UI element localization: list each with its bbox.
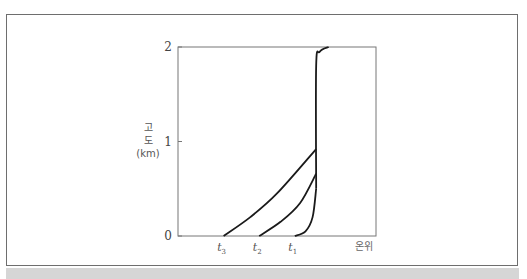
y-axis-label-line: (km) <box>136 148 159 159</box>
y-axis-label-line: 도 <box>144 135 153 146</box>
y-axis-label-line: 고 <box>144 122 153 133</box>
x-marker-t1: t1 <box>288 241 297 256</box>
curve-t3 <box>224 149 317 236</box>
x-marker-t3: t3 <box>217 241 226 256</box>
curves <box>224 47 329 236</box>
y-axis-label: 고도(km) <box>136 122 159 159</box>
plot-box <box>178 47 376 236</box>
chart-svg: 012 고도(km) t3t2t1 온위 <box>0 0 527 279</box>
y-ticks: 012 <box>164 40 182 243</box>
y-tick-label: 0 <box>164 229 172 243</box>
x-axis-label: 온위 <box>355 240 373 252</box>
y-tick-label: 2 <box>164 40 172 54</box>
curve-upper-profile <box>316 47 329 189</box>
x-markers: t3t2t1 <box>217 241 297 256</box>
x-marker-t2: t2 <box>253 241 262 256</box>
y-tick-label: 1 <box>164 135 172 149</box>
